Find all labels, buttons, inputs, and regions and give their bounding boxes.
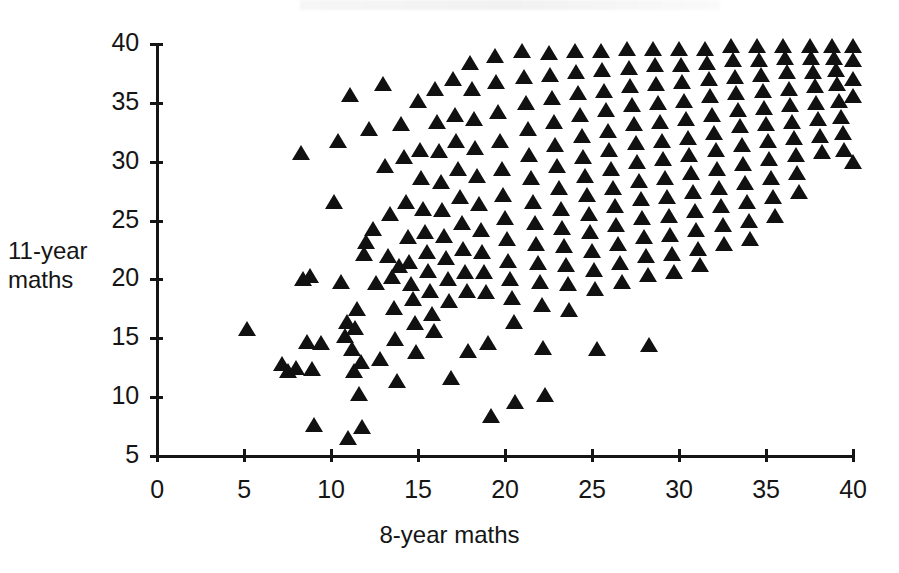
data-point-marker: [453, 215, 471, 230]
data-point-marker: [844, 71, 862, 86]
data-point-marker: [374, 76, 392, 91]
data-point-marker: [325, 194, 343, 209]
data-point-marker: [402, 276, 420, 291]
data-point-marker: [486, 48, 504, 63]
data-point-marker: [557, 257, 575, 272]
data-point-marker: [660, 208, 678, 223]
data-point-marker: [632, 191, 650, 206]
data-point-marker: [479, 335, 497, 350]
y-axis-title: 11-yearmaths: [8, 236, 88, 294]
data-point-marker: [407, 344, 425, 359]
data-point-marker: [609, 236, 627, 251]
data-point-marker: [477, 284, 495, 299]
data-point-marker: [802, 50, 820, 65]
data-point-marker: [604, 180, 622, 195]
data-point-marker: [658, 189, 676, 204]
data-point-marker: [543, 90, 561, 105]
data-point-marker: [738, 194, 756, 209]
scan-bleed-artifact: [300, 0, 720, 10]
data-point-marker: [352, 354, 370, 369]
data-point-marker: [566, 43, 584, 58]
data-point-marker: [578, 187, 596, 202]
data-point-marker: [754, 83, 772, 98]
data-point-marker: [592, 43, 610, 58]
data-point-marker: [503, 290, 521, 305]
data-point-marker: [440, 293, 458, 308]
data-point-marker: [426, 81, 444, 96]
data-point-marker: [519, 121, 537, 136]
data-point-marker: [646, 57, 664, 72]
data-point-marker: [834, 125, 852, 140]
data-point-marker: [766, 208, 784, 223]
data-point-marker: [691, 257, 709, 272]
data-point-marker: [613, 274, 631, 289]
data-point-marker: [423, 306, 441, 321]
data-point-marker: [757, 116, 775, 131]
data-point-marker: [433, 202, 451, 217]
data-point-marker: [456, 264, 474, 279]
data-point-marker: [736, 175, 754, 190]
data-point-marker: [788, 165, 806, 180]
data-point-marker: [759, 133, 777, 148]
data-point-marker: [505, 314, 523, 329]
data-point-marker: [764, 189, 782, 204]
data-point-marker: [586, 281, 604, 296]
data-point-marker: [780, 81, 798, 96]
data-point-marker: [785, 130, 803, 145]
data-point-marker: [714, 217, 732, 232]
data-point-marker: [639, 267, 657, 282]
data-point-marker: [444, 71, 462, 86]
data-point-marker: [353, 419, 371, 434]
data-point-marker: [531, 274, 549, 289]
data-point-marker: [762, 170, 780, 185]
data-point-marker: [726, 69, 744, 84]
data-point-marker: [715, 236, 733, 251]
data-point-marker: [760, 151, 778, 166]
data-point-marker: [550, 180, 568, 195]
data-point-marker: [371, 351, 389, 366]
data-point-marker: [527, 236, 545, 251]
data-point-marker: [301, 268, 319, 283]
data-point-marker: [513, 43, 531, 58]
data-point-marker: [781, 97, 799, 112]
data-point-marker: [567, 64, 585, 79]
data-point-marker: [341, 87, 359, 102]
data-point-marker: [654, 151, 672, 166]
data-point-marker: [804, 64, 822, 79]
data-point-marker: [419, 263, 437, 278]
data-point-marker: [750, 52, 768, 67]
data-point-marker: [312, 335, 330, 350]
data-point-marker: [787, 147, 805, 162]
data-point-marker: [727, 85, 745, 100]
data-point-marker: [689, 241, 707, 256]
data-point-marker: [809, 111, 827, 126]
data-point-marker: [644, 41, 662, 56]
data-point-marker: [489, 104, 507, 119]
data-point-marker: [734, 156, 752, 171]
data-point-marker: [705, 125, 723, 140]
data-point-marker: [684, 184, 702, 199]
data-point-marker: [447, 133, 465, 148]
data-point-marker: [482, 408, 500, 423]
x-tick-label-35: 35: [726, 477, 806, 502]
y-axis-title-line2: maths: [8, 266, 73, 293]
data-point-marker: [376, 158, 394, 173]
data-point-marker: [496, 210, 514, 225]
data-point-marker: [707, 142, 725, 157]
y-tick-label-30: 30: [61, 148, 139, 173]
data-point-marker: [630, 173, 648, 188]
data-point-marker: [451, 189, 469, 204]
data-point-marker: [701, 88, 719, 103]
data-point-marker: [581, 224, 599, 239]
data-point-marker: [292, 145, 310, 160]
data-point-marker: [411, 142, 429, 157]
data-point-marker: [439, 271, 457, 286]
data-point-marker: [844, 88, 862, 103]
data-point-marker: [536, 387, 554, 402]
data-point-marker: [506, 394, 524, 409]
data-point-marker: [520, 147, 538, 162]
data-point-marker: [435, 228, 453, 243]
data-point-marker: [559, 276, 577, 291]
data-point-marker: [465, 111, 483, 126]
data-point-marker: [576, 168, 594, 183]
